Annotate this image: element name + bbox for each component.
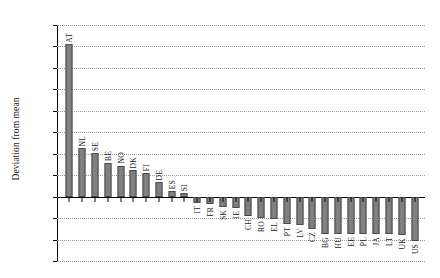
gridline (57, 261, 425, 262)
bar-group: IT (191, 25, 204, 261)
bar-group: DE (153, 25, 166, 261)
bar-group: SE (89, 25, 102, 261)
x-axis-tick-mark (197, 197, 198, 202)
bar (386, 197, 393, 235)
bar-group: UK (395, 25, 408, 261)
bar (322, 197, 329, 234)
bar-series: ATNLSEBENODKFIDEESSIITFRSKIECHROELPTLVCZ… (57, 25, 425, 261)
bar-group: AT (63, 25, 76, 261)
y-axis-tick-mark (53, 261, 57, 262)
bar-category-label: IT (193, 206, 202, 214)
bar-group: CH (242, 25, 255, 261)
x-axis-tick-mark (120, 197, 121, 202)
x-axis-tick-mark (248, 197, 249, 202)
bar (66, 44, 73, 196)
x-axis-tick-mark (299, 197, 300, 202)
bar-group: NO (114, 25, 127, 261)
bar-group: RO (255, 25, 268, 261)
bar-group: DK (127, 25, 140, 261)
bar-category-label: DK (129, 157, 138, 168)
bar-category-label: EE (346, 237, 355, 247)
x-axis-tick-mark (273, 197, 274, 202)
bar-group: FR (204, 25, 217, 261)
x-axis-tick-mark (312, 197, 313, 202)
bar-group: BG (319, 25, 332, 261)
bar-group: SI (178, 25, 191, 261)
bar-category-label: HU (333, 237, 342, 248)
bar (130, 170, 137, 197)
y-axis-title: Deviation from mean (11, 59, 21, 219)
x-axis-tick-mark (210, 197, 211, 202)
bar-group: CZ (306, 25, 319, 261)
plot-area: 4.003.503.002.502.001.501.000.50–-0.50-1… (57, 25, 425, 261)
bar-category-label: IE (231, 211, 240, 219)
bar-category-label: PL (359, 237, 368, 246)
bar-group: HU (332, 25, 345, 261)
x-axis-tick-mark (94, 197, 95, 202)
bar (398, 197, 405, 235)
bar-group: LV (293, 25, 306, 261)
bar-category-label: JA (372, 237, 381, 246)
x-axis-tick-mark (146, 197, 147, 202)
x-axis-tick-mark (235, 197, 236, 202)
bar-category-label: EL (269, 222, 278, 232)
bar-category-label: PT (282, 227, 291, 236)
x-axis-tick-mark (133, 197, 134, 202)
bar-category-label: LV (295, 228, 304, 238)
x-axis-tick-mark (261, 197, 262, 202)
x-axis-tick-mark (363, 197, 364, 202)
bar-group: PT (280, 25, 293, 261)
bar-category-label: SI (180, 184, 189, 191)
bar-category-label: CH (244, 219, 253, 230)
bar (143, 173, 150, 197)
bar (155, 182, 162, 196)
bar-group: LT (383, 25, 396, 261)
bar-category-label: LT (385, 237, 394, 246)
bar-category-label: AT (65, 33, 74, 43)
bar (104, 163, 111, 196)
bar-group: NL (76, 25, 89, 261)
bar (117, 166, 124, 197)
x-axis-tick-mark (389, 197, 390, 202)
bar (347, 197, 354, 235)
bar-category-label: NO (116, 152, 125, 163)
x-axis-tick-mark (222, 197, 223, 202)
x-axis-tick-mark (82, 197, 83, 202)
bar-category-label: US (410, 244, 419, 254)
bar-category-label: BG (321, 237, 330, 248)
bar-category-label: DE (154, 170, 163, 181)
x-axis-tick-mark (325, 197, 326, 202)
bar (411, 197, 418, 241)
x-axis-tick-mark (286, 197, 287, 202)
bar-category-label: ES (167, 180, 176, 189)
x-axis-tick-mark (158, 197, 159, 202)
bar-group: IE (229, 25, 242, 261)
bar-group: FI (140, 25, 153, 261)
x-axis-tick-mark (171, 197, 172, 202)
bar (373, 197, 380, 234)
x-axis-tick-mark (107, 197, 108, 202)
bar-group: BE (101, 25, 114, 261)
bar-category-label: UK (397, 238, 406, 249)
bar-category-label: NL (78, 136, 87, 147)
bar (334, 197, 341, 234)
x-axis-tick-mark (350, 197, 351, 202)
bar-group: US (408, 25, 421, 261)
bar-group: JA (370, 25, 383, 261)
bar-chart: Deviation from mean 4.003.503.002.502.00… (0, 0, 440, 278)
bar-category-label: SK (218, 210, 227, 220)
bar-category-label: BE (103, 151, 112, 161)
x-axis-tick-mark (414, 197, 415, 202)
x-axis-tick-mark (184, 197, 185, 202)
bar-group: PL (357, 25, 370, 261)
bar-group: ES (165, 25, 178, 261)
bar (79, 148, 86, 196)
bar (91, 153, 98, 197)
x-axis-tick-mark (337, 197, 338, 202)
bar-group: EL (268, 25, 281, 261)
bar-group: SK (216, 25, 229, 261)
x-axis-tick-mark (401, 197, 402, 202)
x-axis-tick-mark (376, 197, 377, 202)
bar-category-label: RO (257, 221, 266, 232)
bar-category-label: CZ (308, 232, 317, 242)
